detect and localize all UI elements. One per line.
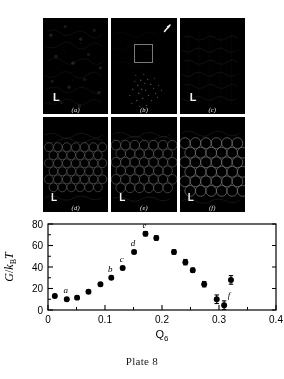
micrograph-panel-b: (b) — [111, 18, 176, 114]
micrograph-panel-f: L (f) — [180, 117, 245, 213]
data-point — [201, 281, 207, 287]
data-point — [153, 235, 159, 241]
data-point — [86, 289, 92, 295]
point-label-b: b — [108, 264, 113, 274]
plate-caption: Plate 8 — [0, 355, 284, 367]
nucleation-barrier-chart: 00.10.20.30.4020406080abcdefQ6G/kBT — [0, 214, 284, 344]
chart-svg: 00.10.20.30.4020406080abcdefQ6G/kBT — [0, 214, 284, 344]
svg-text:G/kBT: G/kBT — [2, 251, 18, 282]
data-point — [143, 231, 149, 237]
chart-plot-frame — [48, 224, 276, 310]
y-tick-label: 0 — [37, 305, 43, 316]
panel-d-label: (d) — [43, 204, 108, 211]
data-point — [228, 277, 234, 283]
panel-a-scale-marker: L — [53, 92, 60, 103]
data-point — [120, 265, 126, 271]
point-label-e: e — [142, 220, 146, 230]
point-label-c: c — [120, 254, 124, 264]
panel-b-nucleus-box — [134, 44, 153, 63]
x-tick-label: 0 — [45, 314, 51, 325]
data-point — [74, 295, 80, 301]
x-tick-label: 0.1 — [98, 314, 112, 325]
panel-b-arrow-icon — [157, 22, 173, 38]
panel-e-label: (e) — [111, 204, 176, 211]
micrograph-panel-c: L (c) — [180, 18, 245, 114]
micrograph-panel-grid: L (a) — [43, 18, 245, 212]
data-point — [221, 302, 227, 308]
y-tick-label: 60 — [32, 240, 44, 251]
y-tick-label: 80 — [32, 219, 44, 230]
data-point — [108, 275, 114, 281]
panel-c-label: (c) — [180, 106, 245, 113]
point-label-a: a — [64, 285, 69, 295]
y-tick-label: 40 — [32, 262, 44, 273]
y-tick-label: 20 — [32, 283, 44, 294]
x-axis-title: Q6 — [155, 328, 169, 343]
plate-figure: L (a) — [0, 0, 284, 379]
x-tick-label: 0.2 — [155, 314, 169, 325]
data-point — [64, 296, 70, 302]
panel-c-scale-marker: L — [190, 92, 197, 103]
data-point — [190, 267, 196, 273]
panel-d-scale-marker: L — [51, 193, 57, 203]
x-tick-label: 0.3 — [212, 314, 226, 325]
data-point — [52, 293, 58, 299]
micrograph-panel-d: L (d) — [43, 117, 108, 213]
point-label-f: f — [228, 290, 232, 300]
data-point — [97, 281, 103, 287]
panel-f-label: (f) — [180, 204, 245, 211]
panel-f-scale-marker: L — [188, 193, 194, 203]
panel-e-scale-marker: L — [119, 193, 125, 203]
data-point — [214, 296, 220, 302]
data-point — [182, 259, 188, 265]
panel-a-label: (a) — [43, 106, 108, 113]
data-point — [131, 249, 137, 255]
x-tick-label: 0.4 — [269, 314, 283, 325]
y-axis-title: G/kBT — [2, 251, 18, 282]
point-label-d: d — [131, 238, 136, 248]
panel-b-label: (b) — [111, 106, 176, 113]
micrograph-panel-e: L (e) — [111, 117, 176, 213]
data-point — [171, 249, 177, 255]
micrograph-panel-a: L (a) — [43, 18, 108, 114]
